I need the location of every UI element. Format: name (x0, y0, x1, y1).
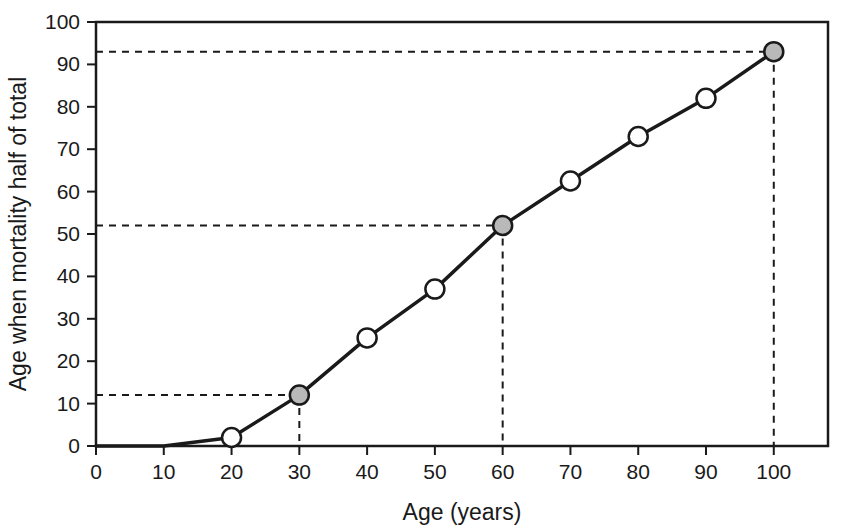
chart-figure: 0102030405060708090100 01020304050607080… (0, 0, 842, 532)
data-point-marker-filled (493, 216, 512, 235)
x-tick-label: 100 (756, 460, 791, 483)
y-tick-label: 50 (57, 222, 80, 245)
y-axis-title: Age when mortality half of total (5, 77, 31, 392)
data-point-marker-open (697, 89, 716, 108)
mortality-age-line-chart: 0102030405060708090100 01020304050607080… (0, 0, 842, 532)
x-tick-label: 50 (423, 460, 446, 483)
y-tick-label: 30 (57, 307, 80, 330)
data-point-marker-open (561, 172, 580, 191)
x-tick-label: 0 (90, 460, 102, 483)
y-tick-label: 20 (57, 349, 80, 372)
data-point-marker-open (358, 328, 377, 347)
data-point-marker-open (629, 127, 648, 146)
x-tick-label: 90 (694, 460, 717, 483)
y-tick-label: 10 (57, 392, 80, 415)
data-point-marker-open (222, 428, 241, 447)
y-tick-label: 40 (57, 264, 80, 287)
x-axis-title: Age (years) (403, 499, 522, 525)
x-tick-label: 30 (288, 460, 311, 483)
x-tick-label: 20 (220, 460, 243, 483)
x-tick-label: 60 (491, 460, 514, 483)
y-tick-label: 70 (57, 137, 80, 160)
y-tick-label: 80 (57, 95, 80, 118)
x-tick-label: 70 (559, 460, 582, 483)
data-point-marker-filled (290, 386, 309, 405)
y-tick-label: 100 (45, 10, 80, 33)
chart-background (0, 0, 842, 532)
y-tick-label: 60 (57, 180, 80, 203)
data-point-marker-filled (764, 42, 783, 61)
y-tick-label: 0 (68, 434, 80, 457)
y-tick-label: 90 (57, 52, 80, 75)
x-tick-label: 40 (355, 460, 378, 483)
x-tick-label: 80 (627, 460, 650, 483)
x-tick-label: 10 (152, 460, 175, 483)
data-point-marker-open (425, 280, 444, 299)
